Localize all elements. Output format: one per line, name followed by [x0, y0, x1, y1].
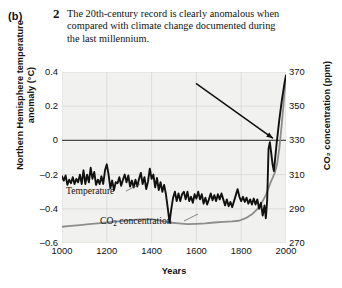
caption-block: 2 The 20th-century record is clearly ano… — [67, 8, 282, 45]
temperature-line — [62, 75, 286, 222]
caption-text: The 20th-century record is clearly anoma… — [67, 8, 282, 45]
x-axis-ticks: 100012001400160018002000 — [0, 245, 342, 261]
x-tick: 1000 — [52, 245, 73, 256]
annotation-arrow — [196, 83, 273, 138]
gridlines — [62, 72, 286, 243]
y-tick-left: 0.2 — [2, 100, 58, 111]
y-tick-right: 310 — [289, 169, 305, 180]
plot-area: TemperatureCO2 concentration — [62, 72, 286, 243]
chart-svg: TemperatureCO2 concentration — [62, 72, 286, 243]
x-tick: 2000 — [276, 245, 297, 256]
x-tick: 1200 — [96, 245, 117, 256]
y-tick-right: 290 — [289, 203, 305, 214]
y-tick-right: 370 — [289, 66, 305, 77]
y-tick-left: 0.4 — [2, 66, 58, 77]
x-tick: 1400 — [141, 245, 162, 256]
x-tick: 1600 — [186, 245, 207, 256]
x-tick: 1800 — [231, 245, 252, 256]
co2-series-label: CO2 concentration — [100, 215, 172, 228]
figure-panel-b: (b) 2 The 20th-century record is clearly… — [0, 0, 342, 288]
y-tick-left: –0.2 — [2, 169, 58, 180]
inline-series-labels: TemperatureCO2 concentration — [66, 184, 198, 228]
y-tick-right: 330 — [289, 134, 305, 145]
temperature-series-label: Temperature — [66, 185, 114, 196]
y-tick-left: –0.4 — [2, 203, 58, 214]
y-tick-left: 0 — [2, 134, 58, 145]
y-tick-right: 350 — [289, 100, 305, 111]
x-axis-title: Years — [62, 266, 286, 276]
